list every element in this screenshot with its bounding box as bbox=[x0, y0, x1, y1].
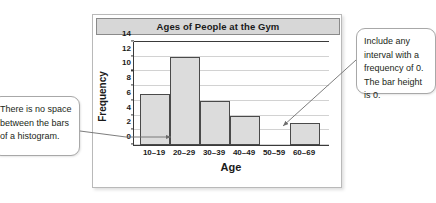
x-tick-label: 30–39 bbox=[199, 148, 229, 157]
y-tick-mark bbox=[131, 129, 134, 130]
x-axis-tick-labels: 10–1920–2930–3940–4950–5960–69 bbox=[139, 148, 329, 157]
chart-title-band: Ages of People at the Gym bbox=[96, 18, 340, 35]
callout-no-space-between-bars: There is no space between the bars of a … bbox=[0, 96, 80, 156]
y-tick-label: 6 bbox=[127, 87, 131, 96]
bar-slot bbox=[290, 42, 320, 145]
chart-title: Ages of People at the Gym bbox=[157, 21, 280, 32]
x-tick-label: 60–69 bbox=[289, 148, 319, 157]
histogram-figure-panel: Ages of People at the Gym Frequency 0246… bbox=[92, 14, 342, 188]
y-tick-mark bbox=[131, 99, 134, 100]
y-tick-label: 8 bbox=[127, 73, 131, 82]
y-tick-mark bbox=[131, 114, 134, 115]
y-tick-label: 14 bbox=[122, 29, 131, 38]
y-tick-mark bbox=[131, 40, 134, 41]
callout-right-text: Include any interval with a frequency of… bbox=[364, 36, 424, 100]
x-tick-label: 20–29 bbox=[169, 148, 199, 157]
callout-zero-frequency-interval: Include any interval with a frequency of… bbox=[356, 28, 436, 94]
y-tick-label: 2 bbox=[127, 117, 131, 126]
bar bbox=[230, 116, 260, 145]
bar-slot bbox=[170, 42, 200, 145]
bar-slot bbox=[140, 42, 170, 145]
bar bbox=[290, 123, 320, 145]
y-tick-label: 10 bbox=[122, 58, 131, 67]
x-tick-label: 50–59 bbox=[259, 148, 289, 157]
y-tick-mark bbox=[131, 70, 134, 71]
callout-left-text: There is no space between the bars of a … bbox=[0, 104, 72, 141]
bar bbox=[170, 57, 200, 145]
y-tick-mark bbox=[131, 143, 134, 144]
bar-series bbox=[140, 42, 329, 145]
plot-area: 02468101214 bbox=[133, 42, 329, 146]
bar-slot bbox=[230, 42, 260, 145]
y-tick-mark bbox=[131, 55, 134, 56]
y-tick-label: 12 bbox=[122, 43, 131, 52]
y-tick-mark bbox=[131, 85, 134, 86]
bar bbox=[140, 94, 170, 146]
bar-slot bbox=[260, 42, 290, 145]
x-axis-title: Age bbox=[133, 161, 329, 173]
x-tick-label: 40–49 bbox=[229, 148, 259, 157]
y-tick-label: 4 bbox=[127, 102, 131, 111]
y-tick-label: 0 bbox=[127, 132, 131, 141]
x-tick-label: 10–19 bbox=[139, 148, 169, 157]
bar bbox=[200, 101, 230, 145]
y-axis-title: Frequency bbox=[94, 53, 110, 139]
bar-slot bbox=[200, 42, 230, 145]
